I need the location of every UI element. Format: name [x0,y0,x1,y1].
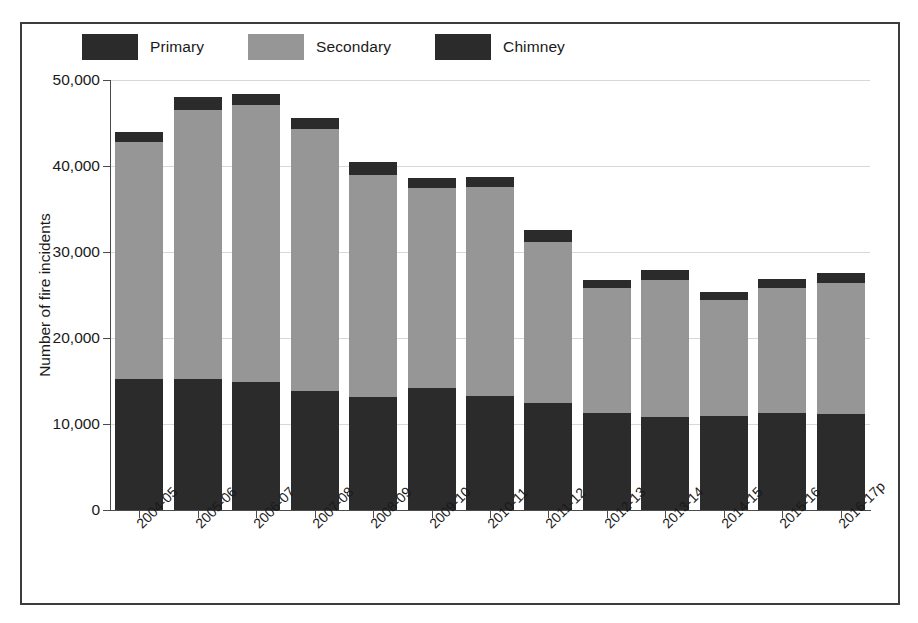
y-axis-tick-label: 0 [91,501,100,519]
legend-item-primary: Primary [82,34,204,60]
y-axis-title-text: Number of fire incidents [36,213,54,377]
y-axis-tick [103,338,110,339]
bar-segment-secondary [758,288,806,413]
y-axis-line [110,80,111,511]
y-axis-tick-label: 50,000 [53,71,100,89]
bar-segment-primary [291,391,339,510]
chart-figure: Primary Secondary Chimney Number of fire… [20,22,900,605]
bar-segment-chimney [583,280,631,288]
legend-swatch-primary-icon [82,34,138,60]
bar-2008-09 [349,162,397,510]
legend-label-chimney: Chimney [503,38,565,56]
bar-segment-secondary [408,188,456,388]
bar-2005-06 [174,97,222,510]
bar-segment-chimney [758,279,806,288]
bar-2014-15 [700,292,748,510]
y-axis-tick [103,80,110,81]
bar-segment-primary [408,388,456,510]
bar-segment-chimney [408,178,456,187]
bar-segment-chimney [641,270,689,279]
bar-segment-secondary [700,300,748,416]
bar-2013-14 [641,270,689,510]
legend-label-primary: Primary [150,38,204,56]
bar-segment-chimney [291,118,339,129]
y-axis-tick-label: 40,000 [53,157,100,175]
bar-group [110,80,870,510]
chart-legend: Primary Secondary Chimney [82,34,609,60]
bar-segment-chimney [174,97,222,110]
bar-segment-chimney [466,177,514,186]
bar-2015-16 [758,279,806,510]
bar-segment-chimney [817,273,865,283]
bar-2016-17p [817,273,865,510]
bar-segment-secondary [349,175,397,398]
bar-segment-chimney [700,292,748,300]
bar-segment-chimney [115,132,163,142]
bar-segment-secondary [524,242,572,403]
bar-segment-primary [349,397,397,510]
y-axis-tick [103,252,110,253]
legend-swatch-chimney-icon [435,34,491,60]
bar-segment-primary [174,379,222,510]
bar-segment-primary [232,382,280,510]
y-axis-tick-label: 30,000 [53,243,100,261]
y-axis-tick [103,424,110,425]
bar-segment-primary [524,403,572,511]
legend-swatch-secondary-icon [248,34,304,60]
bar-segment-secondary [115,142,163,379]
legend-label-secondary: Secondary [316,38,391,56]
plot-area: 010,00020,00030,00040,00050,000 [110,80,870,510]
bar-segment-chimney [232,94,280,105]
bar-segment-chimney [349,162,397,175]
bar-segment-primary [466,396,514,510]
bar-2004-05 [115,132,163,510]
bar-2012-13 [583,280,631,510]
bar-segment-secondary [466,187,514,396]
legend-item-secondary: Secondary [248,34,391,60]
y-axis-title: Number of fire incidents [34,80,56,510]
bar-segment-secondary [291,129,339,391]
bar-segment-primary [115,379,163,510]
bar-segment-secondary [232,105,280,382]
bar-segment-chimney [524,230,572,242]
bar-segment-secondary [641,280,689,418]
y-axis-tick-label: 20,000 [53,329,100,347]
bar-2006-07 [232,94,280,510]
bar-segment-secondary [174,110,222,379]
y-axis-tick [103,510,110,511]
bar-segment-secondary [583,288,631,413]
bar-2010-11 [466,177,514,510]
bar-2011-12 [524,230,572,510]
bar-segment-secondary [817,283,865,414]
bar-2009-10 [408,178,456,510]
y-axis-tick-label: 10,000 [53,415,100,433]
bar-2007-08 [291,118,339,510]
x-axis-labels: 2004-052005-062006-072007-082008-092009-… [110,520,900,600]
y-axis-tick [103,166,110,167]
legend-item-chimney: Chimney [435,34,565,60]
